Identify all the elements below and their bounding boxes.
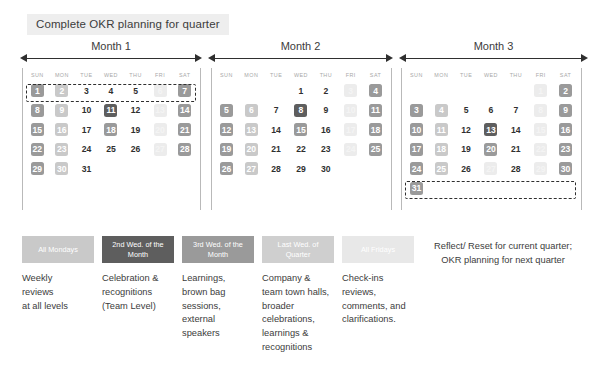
calendar-day[interactable]: 27 bbox=[148, 140, 173, 160]
calendar-day[interactable]: 27 bbox=[479, 159, 504, 179]
calendar-day[interactable]: 11 bbox=[363, 101, 388, 121]
calendar-day[interactable]: 2 bbox=[50, 81, 75, 101]
legend-item[interactable]: All MondaysWeekly reviews at all levels bbox=[22, 236, 94, 313]
calendar-day[interactable]: 30 bbox=[313, 159, 338, 179]
calendar-day[interactable]: 7 bbox=[503, 101, 528, 121]
calendar-day[interactable]: 20 bbox=[479, 140, 504, 160]
calendar-day[interactable]: 2 bbox=[553, 81, 578, 101]
calendar-day[interactable]: 15 bbox=[289, 120, 314, 140]
calendar-day[interactable]: 27 bbox=[239, 159, 264, 179]
calendar-day[interactable]: 17 bbox=[404, 140, 429, 160]
calendar-day[interactable]: 5 bbox=[214, 101, 239, 121]
calendar-day[interactable]: 3 bbox=[404, 101, 429, 121]
calendar-day[interactable]: 28 bbox=[172, 140, 197, 160]
calendar-day[interactable]: 9 bbox=[313, 101, 338, 121]
calendar-month-3[interactable]: SUNMONTUEWEDTHUFRISAT1234567891011121314… bbox=[404, 72, 578, 198]
calendar-day[interactable]: 6 bbox=[239, 101, 264, 121]
calendar-day[interactable]: 13 bbox=[479, 120, 504, 140]
calendar-day[interactable]: 10 bbox=[404, 120, 429, 140]
calendar-day[interactable]: 4 bbox=[429, 101, 454, 121]
calendar-day[interactable]: 6 bbox=[148, 81, 173, 101]
calendar-day[interactable]: 7 bbox=[172, 81, 197, 101]
calendar-day[interactable]: 13 bbox=[239, 120, 264, 140]
calendar-day[interactable]: 20 bbox=[239, 140, 264, 160]
calendar-day[interactable]: 17 bbox=[338, 120, 363, 140]
calendar-day[interactable]: 16 bbox=[313, 120, 338, 140]
calendar-day[interactable]: 29 bbox=[289, 159, 314, 179]
calendar-day[interactable]: 21 bbox=[172, 120, 197, 140]
calendar-day[interactable]: 11 bbox=[99, 101, 124, 121]
calendar-day[interactable]: 31 bbox=[74, 159, 99, 179]
calendar-month-1[interactable]: SUNMONTUEWEDTHUFRISAT1234567891011121314… bbox=[25, 72, 197, 179]
calendar-day[interactable]: 30 bbox=[50, 159, 75, 179]
calendar-day[interactable]: 13 bbox=[148, 101, 173, 121]
calendar-day[interactable]: 1 bbox=[528, 81, 553, 101]
calendar-day[interactable]: 22 bbox=[528, 140, 553, 160]
calendar-day[interactable]: 18 bbox=[99, 120, 124, 140]
calendar-day[interactable]: 4 bbox=[99, 81, 124, 101]
calendar-day[interactable]: 25 bbox=[363, 140, 388, 160]
calendar-day[interactable]: 22 bbox=[289, 140, 314, 160]
calendar-month-2[interactable]: SUNMONTUEWEDTHUFRISAT1234567891011121314… bbox=[214, 72, 388, 179]
calendar-day[interactable]: 15 bbox=[528, 120, 553, 140]
calendar-day[interactable]: 12 bbox=[214, 120, 239, 140]
legend-item[interactable]: 3rd Wed. of the MonthLearnings, brown ba… bbox=[182, 236, 254, 341]
calendar-day[interactable]: 14 bbox=[172, 101, 197, 121]
calendar-day[interactable]: 23 bbox=[50, 140, 75, 160]
calendar-day[interactable]: 28 bbox=[264, 159, 289, 179]
calendar-day[interactable]: 15 bbox=[25, 120, 50, 140]
calendar-day[interactable]: 26 bbox=[123, 140, 148, 160]
calendar-day[interactable]: 14 bbox=[264, 120, 289, 140]
calendar-day[interactable]: 8 bbox=[25, 101, 50, 121]
calendar-day[interactable]: 26 bbox=[214, 159, 239, 179]
legend-item[interactable]: All FridaysCheck-ins reviews, comments, … bbox=[342, 236, 414, 327]
calendar-day[interactable]: 25 bbox=[99, 140, 124, 160]
calendar-day[interactable]: 1 bbox=[25, 81, 50, 101]
calendar-day[interactable]: 12 bbox=[454, 120, 479, 140]
calendar-day[interactable]: 24 bbox=[404, 159, 429, 179]
calendar-day[interactable]: 19 bbox=[214, 140, 239, 160]
calendar-day[interactable]: 22 bbox=[25, 140, 50, 160]
legend-item[interactable]: Last Wed. of QuarterCompany & team town … bbox=[262, 236, 334, 355]
calendar-day[interactable]: 5 bbox=[123, 81, 148, 101]
calendar-day[interactable]: 29 bbox=[25, 159, 50, 179]
calendar-day[interactable]: 18 bbox=[429, 140, 454, 160]
calendar-day[interactable]: 9 bbox=[553, 101, 578, 121]
calendar-day[interactable]: 14 bbox=[503, 120, 528, 140]
calendar-day[interactable]: 8 bbox=[528, 101, 553, 121]
calendar-day[interactable]: 8 bbox=[289, 101, 314, 121]
calendar-day[interactable]: 9 bbox=[50, 101, 75, 121]
calendar-day[interactable]: 16 bbox=[50, 120, 75, 140]
calendar-day[interactable]: 19 bbox=[123, 120, 148, 140]
calendar-day[interactable]: 16 bbox=[553, 120, 578, 140]
calendar-day[interactable]: 26 bbox=[454, 159, 479, 179]
calendar-day[interactable]: 28 bbox=[503, 159, 528, 179]
calendar-day[interactable]: 17 bbox=[74, 120, 99, 140]
calendar-day[interactable]: 3 bbox=[338, 81, 363, 101]
calendar-day[interactable]: 1 bbox=[289, 81, 314, 101]
calendar-day[interactable]: 10 bbox=[338, 101, 363, 121]
calendar-day[interactable]: 31 bbox=[404, 179, 429, 199]
calendar-day[interactable]: 24 bbox=[338, 140, 363, 160]
calendar-day[interactable]: 25 bbox=[429, 159, 454, 179]
calendar-day[interactable]: 3 bbox=[74, 81, 99, 101]
calendar-day[interactable]: 23 bbox=[313, 140, 338, 160]
calendar-day[interactable]: 20 bbox=[148, 120, 173, 140]
calendar-day[interactable]: 29 bbox=[528, 159, 553, 179]
calendar-day[interactable]: 7 bbox=[264, 101, 289, 121]
calendar-day[interactable]: 6 bbox=[479, 101, 504, 121]
calendar-day[interactable]: 23 bbox=[553, 140, 578, 160]
calendar-day[interactable]: 21 bbox=[503, 140, 528, 160]
calendar-day[interactable]: 30 bbox=[553, 159, 578, 179]
legend-item[interactable]: 2nd Wed. of the MonthCelebration & recog… bbox=[102, 236, 174, 313]
calendar-day[interactable]: 4 bbox=[363, 81, 388, 101]
calendar-day[interactable]: 11 bbox=[429, 120, 454, 140]
calendar-day[interactable]: 10 bbox=[74, 101, 99, 121]
calendar-day[interactable]: 2 bbox=[313, 81, 338, 101]
calendar-day[interactable]: 19 bbox=[454, 140, 479, 160]
calendar-day[interactable]: 12 bbox=[123, 101, 148, 121]
calendar-day[interactable]: 21 bbox=[264, 140, 289, 160]
calendar-day[interactable]: 5 bbox=[454, 101, 479, 121]
calendar-day[interactable]: 18 bbox=[363, 120, 388, 140]
calendar-day[interactable]: 24 bbox=[74, 140, 99, 160]
